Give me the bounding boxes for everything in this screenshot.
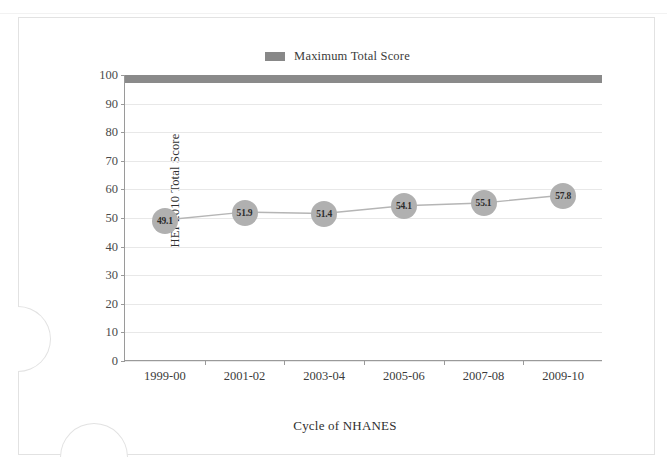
data-point-marker-2007-08: 55.1 bbox=[471, 190, 497, 216]
data-point-marker-2005-06: 54.1 bbox=[391, 193, 417, 219]
data-point-marker-2001-02: 51.9 bbox=[232, 200, 258, 226]
x-tick-label-2005-06: 2005-06 bbox=[383, 369, 425, 384]
data-point-marker-1999-00: 49.1 bbox=[152, 208, 178, 234]
data-point-label-2007-08: 55.1 bbox=[476, 198, 492, 208]
x-tick-mark-1 bbox=[205, 360, 206, 365]
x-tick-label-2007-08: 2007-08 bbox=[463, 369, 505, 384]
data-point-label-2001-02: 51.9 bbox=[237, 208, 253, 218]
series-line-hei-2010-total-score bbox=[125, 75, 602, 360]
scan-artifact-line bbox=[0, 13, 667, 14]
data-point-marker-2003-04: 51.4 bbox=[311, 201, 337, 227]
data-point-label-2005-06: 54.1 bbox=[396, 201, 412, 211]
y-tick-label-40: 40 bbox=[106, 239, 119, 254]
y-tick-label-70: 70 bbox=[106, 153, 119, 168]
scanned-page: Maximum Total Score HEI-2010 Total Score… bbox=[0, 0, 667, 472]
x-axis-title: Cycle of NHANES bbox=[106, 418, 584, 434]
x-tick-mark-4 bbox=[444, 360, 445, 365]
x-tick-label-2003-04: 2003-04 bbox=[303, 369, 345, 384]
legend-swatch-maximum-total-score bbox=[265, 52, 285, 61]
y-tick-label-50: 50 bbox=[106, 211, 119, 226]
x-tick-label-1999-00: 1999-00 bbox=[144, 369, 186, 384]
x-tick-mark-2 bbox=[284, 360, 285, 365]
y-tick-label-90: 90 bbox=[106, 96, 119, 111]
data-point-label-2009-10: 57.8 bbox=[555, 191, 571, 201]
y-tick-label-0: 0 bbox=[112, 354, 118, 369]
legend-label-maximum-total-score: Maximum Total Score bbox=[294, 49, 410, 64]
y-tick-label-60: 60 bbox=[106, 182, 119, 197]
data-point-label-1999-00: 49.1 bbox=[157, 216, 173, 226]
chart-legend: Maximum Total Score bbox=[19, 49, 656, 64]
x-tick-mark-5 bbox=[523, 360, 524, 365]
x-tick-label-2009-10: 2009-10 bbox=[542, 369, 584, 384]
y-tick-label-100: 100 bbox=[99, 68, 118, 83]
y-tick-mark-0 bbox=[121, 361, 125, 362]
y-tick-label-80: 80 bbox=[106, 125, 119, 140]
chart-plot-region: HEI-2010 Total Score 0102030405060708090… bbox=[106, 75, 584, 361]
x-tick-mark-3 bbox=[364, 360, 365, 365]
data-point-label-2003-04: 51.4 bbox=[316, 209, 332, 219]
data-point-marker-2009-10: 57.8 bbox=[550, 183, 576, 209]
y-tick-label-20: 20 bbox=[106, 296, 119, 311]
x-tick-label-2001-02: 2001-02 bbox=[224, 369, 266, 384]
plot-area: 01020304050607080901001999-002001-022003… bbox=[124, 75, 602, 361]
y-tick-label-10: 10 bbox=[106, 325, 119, 340]
binder-notch-left bbox=[18, 306, 51, 372]
y-tick-label-30: 30 bbox=[106, 268, 119, 283]
